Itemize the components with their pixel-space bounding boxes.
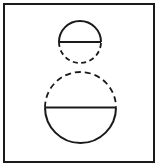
diagram-canvas — [0, 0, 157, 165]
outer-frame — [4, 4, 154, 162]
